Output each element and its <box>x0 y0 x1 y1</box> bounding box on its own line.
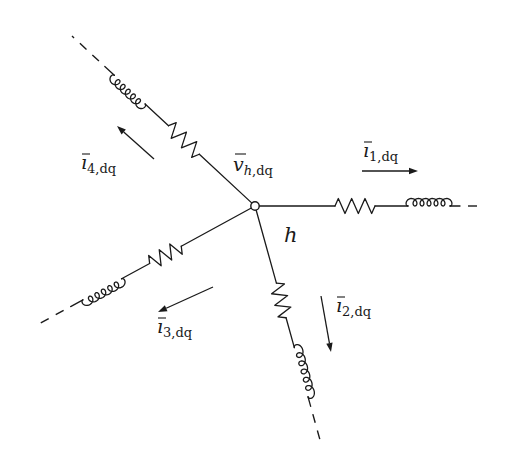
current-arrow-2 <box>321 296 333 352</box>
wire-segment <box>145 104 168 126</box>
current-2-text: ı2,dq <box>336 294 371 319</box>
node-h <box>251 202 259 210</box>
arrow-shaft <box>124 132 154 159</box>
inductor-1 <box>406 199 452 207</box>
wire-segment <box>71 300 83 307</box>
arrow-shaft <box>321 296 329 343</box>
node-voltage-label: vh,dq <box>233 153 273 178</box>
arrowhead-icon <box>158 305 168 312</box>
branches <box>35 36 482 440</box>
branch-1 <box>259 199 482 214</box>
arrowhead-icon <box>326 343 332 352</box>
branch-4 <box>72 36 252 203</box>
dashed-continuation-2 <box>313 414 320 440</box>
resistor-4 <box>169 123 200 158</box>
resistor-1 <box>335 199 375 214</box>
wire-segment <box>256 210 276 283</box>
voltage-symbol: vh,dq <box>233 153 273 178</box>
wire-segment <box>199 154 252 203</box>
branch-3 <box>35 208 251 326</box>
current-1-text: ı1,dq <box>363 139 398 164</box>
circuit-diagram: vh,dq h ı1,dq ı2,dq ı3,dq ı4,dq <box>0 0 532 467</box>
current-4-text: ı4,dq <box>81 151 116 176</box>
current-label-1: ı1,dq <box>363 139 398 164</box>
wire-segment <box>122 263 150 278</box>
current-label-2: ı2,dq <box>336 294 371 319</box>
wire-segment <box>181 208 251 246</box>
dashed-continuation-3 <box>35 310 64 326</box>
node-name-label: h <box>284 223 298 247</box>
resistor-2 <box>272 283 291 318</box>
inductor-3 <box>82 279 125 306</box>
current-arrow-3 <box>158 287 213 312</box>
current-label-4: ı4,dq <box>81 151 116 176</box>
current-arrow-1 <box>362 168 418 174</box>
arrow-shaft <box>166 287 213 308</box>
current-label-3: ı3,dq <box>157 315 192 340</box>
wire-segment <box>105 66 115 75</box>
inductor-4 <box>110 75 146 109</box>
dashed-continuation-4 <box>72 36 99 61</box>
arrowhead-icon <box>409 168 418 174</box>
wire-segment <box>286 318 294 348</box>
current-arrow-4 <box>117 126 154 159</box>
resistor-3 <box>149 244 183 266</box>
inductor-2 <box>294 345 314 399</box>
current-3-text: ı3,dq <box>157 315 192 340</box>
